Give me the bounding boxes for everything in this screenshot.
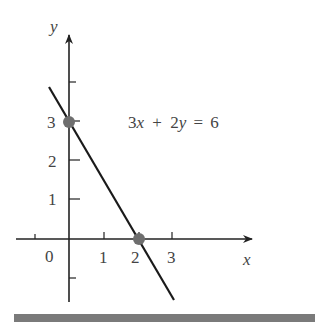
x-axis-label: x bbox=[242, 250, 251, 269]
x-tick-label-2: 2 bbox=[131, 248, 140, 267]
equation-equals: = bbox=[193, 113, 203, 132]
y-axis-label: y bbox=[48, 17, 58, 36]
origin-label: 0 bbox=[45, 247, 54, 266]
y-tick-label-1: 1 bbox=[48, 190, 57, 209]
equation-var-x: x bbox=[136, 113, 145, 132]
equation-plus: + bbox=[152, 113, 162, 132]
y-intercept-point bbox=[63, 116, 75, 128]
x-tick-label-3: 3 bbox=[167, 248, 176, 267]
equation-coef-b: 2 bbox=[170, 113, 179, 132]
x-intercept-point bbox=[133, 233, 145, 245]
x-tick-label-1: 1 bbox=[99, 248, 108, 267]
equation-label: 3x + 2y = 6 bbox=[128, 113, 219, 132]
equation-var-y: y bbox=[177, 113, 187, 132]
equation-coef-a: 3 bbox=[128, 113, 137, 132]
y-tick-label-3: 3 bbox=[47, 113, 56, 132]
y-tick-label-2: 2 bbox=[48, 152, 57, 171]
equation-constant: 6 bbox=[210, 113, 219, 132]
bottom-divider-bar bbox=[14, 314, 315, 322]
line-graph: y x 0 1 2 3 1 2 3 3x + 2y = 6 bbox=[0, 0, 315, 328]
